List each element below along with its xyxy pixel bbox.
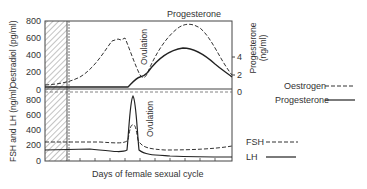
svg-text:200: 200	[26, 140, 41, 150]
y-axis-label-progesterone: Progesterone	[248, 22, 258, 73]
hormone-cycle-chart: 800 600 400 200 0 800 600 400 200 0 4 2 …	[0, 0, 367, 189]
left-axis-top: 800 600 400 200 0	[26, 16, 41, 95]
lh-curve	[45, 96, 232, 157]
svg-text:LH: LH	[246, 152, 258, 162]
svg-text:4: 4	[237, 52, 242, 62]
svg-text:600: 600	[26, 33, 41, 43]
svg-text:Oestrogen: Oestrogen	[284, 81, 326, 91]
legend-bottom: FSH LH	[246, 137, 298, 162]
svg-text:400: 400	[26, 125, 41, 135]
svg-text:200: 200	[26, 67, 41, 77]
svg-text:400: 400	[26, 50, 41, 60]
menstruation-hatched-region	[45, 21, 67, 161]
ovulation-label-top: Ovulation	[139, 29, 149, 65]
svg-text:2: 2	[237, 70, 242, 80]
svg-text:(ng/ml): (ng/ml)	[258, 35, 268, 62]
svg-text:FSH: FSH	[246, 137, 264, 147]
svg-text:0: 0	[36, 156, 41, 166]
ovulation-label-bottom: Ovulation	[145, 101, 155, 137]
progesterone-annotation: Progesterone	[167, 9, 221, 19]
left-axis-bottom: 800 600 400 200 0	[26, 95, 41, 166]
y-axis-label-oestradiol: Oestradiol (pg/ml)	[8, 20, 18, 88]
y-axis-label-fsh-lh: FSH and LH (ng/ml)	[8, 86, 18, 162]
x-axis-label: Days of female sexual cycle	[92, 169, 204, 179]
svg-text:0: 0	[237, 87, 242, 97]
svg-text:800: 800	[26, 16, 41, 26]
legend-top: Oestrogen Progesterone	[275, 81, 355, 105]
svg-text:Progesterone: Progesterone	[275, 95, 329, 105]
right-axis: 4 2 0	[232, 52, 242, 97]
svg-text:600: 600	[26, 110, 41, 120]
svg-text:800: 800	[26, 95, 41, 105]
svg-text:0: 0	[36, 85, 41, 95]
